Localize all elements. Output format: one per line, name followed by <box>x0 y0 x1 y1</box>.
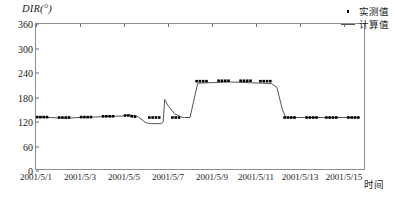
measured-value-marker <box>293 116 296 119</box>
measured-value-marker <box>80 116 83 119</box>
measured-value-marker <box>36 116 38 119</box>
measured-value-marker <box>83 116 86 119</box>
legend-label-calculated: 计算值 <box>359 18 389 32</box>
measured-value-marker <box>217 79 220 82</box>
measured-value-marker <box>64 116 67 119</box>
legend-label-measured: 实测值 <box>359 5 389 19</box>
measured-value-marker <box>155 116 158 119</box>
measured-value-marker <box>148 116 151 119</box>
x-tick-label: 2001/5/1 <box>20 172 52 182</box>
plot-area: 0601201802403003602001/5/12001/5/32001/5… <box>35 23 365 170</box>
measured-value-marker <box>347 116 350 119</box>
measured-value-marker <box>262 80 265 83</box>
measured-value-marker <box>328 116 331 119</box>
measured-value-marker <box>269 80 272 83</box>
y-tick-mark <box>36 146 39 147</box>
plot-svg <box>36 24 366 171</box>
measured-value-marker <box>305 116 308 119</box>
measured-value-marker <box>86 116 89 119</box>
x-tick-mark <box>300 24 301 27</box>
x-tick-label: 2001/5/13 <box>282 172 319 182</box>
measured-value-marker <box>266 80 269 83</box>
measured-value-marker <box>112 115 115 118</box>
measured-value-marker <box>171 116 174 119</box>
measured-value-marker <box>61 116 64 119</box>
measured-value-marker <box>239 79 242 82</box>
measured-value-marker <box>312 116 315 119</box>
measured-value-marker <box>105 115 108 118</box>
measured-value-marker <box>151 116 154 119</box>
measured-value-marker <box>127 114 130 117</box>
measured-value-marker <box>58 116 61 119</box>
measured-value-marker <box>195 80 198 83</box>
x-tick-mark <box>124 24 125 27</box>
series-measured-markers <box>36 79 360 118</box>
measured-value-marker <box>325 116 328 119</box>
x-tick-mark <box>168 24 169 27</box>
chart-legend: 实测值 计算值 <box>341 5 389 31</box>
x-tick-label: 2001/5/15 <box>326 172 363 182</box>
x-tick-label: 2001/5/9 <box>196 172 228 182</box>
y-tick-label: 180 <box>18 92 36 103</box>
measured-value-marker <box>246 79 249 82</box>
measured-value-marker <box>227 79 230 82</box>
measured-value-marker <box>39 116 42 119</box>
y-tick-mark <box>36 122 39 123</box>
measured-value-marker <box>108 115 111 118</box>
x-tick-label: 2001/5/11 <box>238 172 274 182</box>
measured-value-marker <box>102 115 105 118</box>
x-axis-title: 时间 <box>364 177 384 191</box>
measured-value-marker <box>283 116 286 119</box>
y-tick-label: 300 <box>18 43 36 54</box>
measured-value-marker <box>202 80 205 83</box>
x-tick-mark <box>212 24 213 27</box>
y-axis-title: DIR(°) <box>22 3 52 14</box>
measured-value-marker <box>178 116 181 119</box>
measured-value-marker <box>224 79 227 82</box>
y-tick-label: 60 <box>23 141 36 152</box>
measured-value-marker <box>42 116 45 119</box>
chart-figure: DIR(°) 0601201802403003602001/5/12001/5/… <box>0 0 395 201</box>
measured-value-marker <box>221 79 224 82</box>
measured-value-marker <box>309 116 312 119</box>
measured-value-marker <box>243 79 246 82</box>
legend-item-measured: 实测值 <box>341 5 389 18</box>
legend-item-calculated: 计算值 <box>341 18 389 31</box>
measured-value-marker <box>315 116 318 119</box>
measured-value-marker <box>130 115 133 118</box>
measured-value-marker <box>335 116 338 119</box>
legend-line-icon <box>341 24 355 25</box>
measured-value-marker <box>158 116 161 119</box>
measured-value-marker <box>357 116 360 119</box>
x-tick-mark <box>36 24 37 27</box>
y-tick-label: 360 <box>18 19 36 30</box>
measured-value-marker <box>249 79 252 82</box>
measured-value-marker <box>259 80 262 83</box>
measured-value-marker <box>354 116 357 119</box>
y-tick-label: 120 <box>18 117 36 128</box>
measured-value-marker <box>46 116 49 119</box>
measured-value-marker <box>199 80 202 83</box>
x-tick-label: 2001/5/5 <box>108 172 140 182</box>
x-tick-label: 2001/5/3 <box>64 172 96 182</box>
y-tick-mark <box>36 97 39 98</box>
measured-value-marker <box>90 116 93 119</box>
measured-value-marker <box>124 114 127 117</box>
y-tick-mark <box>36 73 39 74</box>
measured-value-marker <box>332 116 335 119</box>
measured-value-marker <box>205 80 208 83</box>
x-tick-label: 2001/5/7 <box>152 172 184 182</box>
measured-value-marker <box>68 116 71 119</box>
measured-value-marker <box>287 116 290 119</box>
x-tick-mark <box>256 24 257 27</box>
y-tick-mark <box>36 48 39 49</box>
x-tick-mark <box>80 24 81 27</box>
measured-value-marker <box>174 116 177 119</box>
measured-value-marker <box>134 115 137 118</box>
legend-dot-icon <box>341 10 355 13</box>
y-tick-label: 240 <box>18 68 36 79</box>
measured-value-marker <box>350 116 353 119</box>
measured-value-marker <box>290 116 293 119</box>
